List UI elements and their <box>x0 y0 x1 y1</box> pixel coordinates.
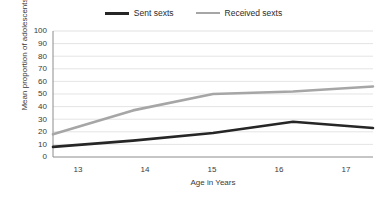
y-tick-label: 10 <box>21 141 47 149</box>
x-tick-label: 13 <box>63 166 93 174</box>
series-line-sent-sexts <box>53 122 373 147</box>
x-axis-title: Age in Years <box>53 178 373 187</box>
series-line-received-sexts <box>53 86 373 134</box>
legend-swatch-sent-sexts <box>105 12 129 15</box>
x-tick-label: 15 <box>197 166 227 174</box>
plot-area <box>53 31 373 157</box>
legend-item-received-sexts[interactable]: Received sexts <box>196 8 283 18</box>
legend-item-sent-sexts[interactable]: Sent sexts <box>105 8 174 18</box>
legend-label-received-sexts: Received sexts <box>225 8 283 18</box>
y-axis-title: Mean proportion of adolescents <box>20 0 29 130</box>
gridlines <box>53 31 373 144</box>
y-tick-label: 0 <box>21 153 47 161</box>
legend-label-sent-sexts: Sent sexts <box>134 8 174 18</box>
legend-swatch-received-sexts <box>196 12 220 14</box>
x-tick-label: 14 <box>130 166 160 174</box>
plot-svg <box>53 31 373 157</box>
line-chart: Sent sexts Received sexts Mean proportio… <box>0 0 387 198</box>
x-tick-label: 16 <box>264 166 294 174</box>
chart-legend: Sent sexts Received sexts <box>0 8 387 18</box>
x-tick-label: 17 <box>331 166 361 174</box>
